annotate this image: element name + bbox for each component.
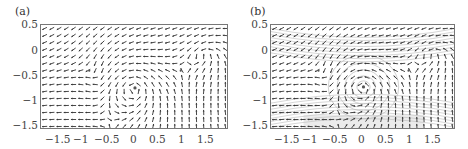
x-tick: 0	[358, 133, 365, 145]
y-tick: −0.5	[13, 69, 39, 81]
y-tick: −1	[23, 94, 38, 106]
x-tick: −1.5	[274, 133, 300, 145]
y-tick: 0.5	[251, 18, 268, 30]
x-tick: 0.5	[149, 133, 166, 145]
y-tick: −1.5	[243, 119, 269, 131]
panel-label: (b)	[250, 5, 266, 18]
plot-area-b	[270, 24, 455, 129]
panel-b: (b) 0.5 0 −0.5 −1 −1.5 −1.5 −1 −0.5 0 0.…	[234, 0, 468, 149]
x-tick: 0.5	[377, 133, 394, 145]
y-tick: 0	[261, 44, 268, 56]
x-tick: 0	[130, 133, 137, 145]
y-tick: −1	[253, 94, 268, 106]
x-tick: −0.5	[94, 133, 120, 145]
x-tick: −1.5	[45, 133, 71, 145]
panel-label: (a)	[15, 5, 30, 18]
x-tick: 1	[178, 133, 185, 145]
x-tick: 1.5	[197, 133, 214, 145]
x-tick: −0.5	[322, 133, 348, 145]
y-tick: 0.5	[21, 18, 38, 30]
y-tick: 0	[31, 44, 38, 56]
panel-a: (a) 0.5 0 −0.5 −1 −1.5 −1.5 −1 −0.5 0 0.…	[0, 0, 234, 149]
x-tick: −1	[302, 133, 317, 145]
y-tick: −0.5	[243, 69, 269, 81]
plot-area-a	[40, 24, 228, 129]
x-tick: 1.5	[424, 133, 441, 145]
vector-field-b	[271, 25, 455, 129]
y-tick: −1.5	[13, 119, 39, 131]
vector-field-a	[41, 25, 228, 129]
x-tick: 1	[406, 133, 413, 145]
x-tick: −1	[73, 133, 88, 145]
